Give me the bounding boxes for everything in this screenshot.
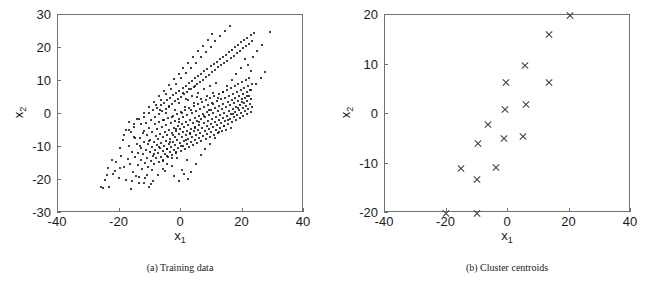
data-point — [157, 152, 159, 154]
data-point — [219, 35, 221, 37]
data-point — [192, 144, 194, 146]
scatter-plot-cluster-centroids — [385, 15, 629, 211]
data-point — [148, 127, 150, 129]
data-point — [173, 127, 175, 129]
data-point — [119, 167, 121, 169]
data-point — [242, 107, 244, 109]
data-point — [195, 163, 197, 165]
data-point — [175, 92, 177, 94]
data-point — [143, 141, 145, 143]
y-tick — [384, 14, 388, 15]
data-point — [146, 134, 148, 136]
y-tick-label: -10 — [344, 155, 378, 170]
data-point — [143, 112, 145, 114]
data-point — [130, 188, 132, 190]
data-point — [165, 108, 167, 110]
data-point — [260, 77, 262, 79]
data-point — [174, 109, 176, 111]
data-point — [217, 66, 219, 68]
data-point — [200, 140, 202, 142]
data-point — [229, 25, 231, 27]
centroid-marker — [483, 120, 492, 129]
data-point — [188, 88, 190, 90]
data-point — [201, 127, 203, 129]
data-point — [169, 151, 171, 153]
data-point — [232, 113, 234, 115]
data-point — [187, 124, 189, 126]
data-point — [230, 127, 232, 129]
data-point — [205, 76, 207, 78]
data-point — [186, 114, 188, 116]
data-point — [119, 147, 121, 149]
data-point — [231, 99, 233, 101]
data-point — [195, 110, 197, 112]
data-point — [152, 180, 154, 182]
data-point — [197, 129, 199, 131]
data-point — [115, 161, 117, 163]
data-point — [125, 179, 127, 181]
data-point — [163, 90, 165, 92]
x-tick-label: -20 — [436, 214, 455, 229]
y-tick — [57, 146, 61, 147]
data-point — [197, 50, 199, 52]
data-point — [186, 91, 188, 93]
data-point — [191, 112, 193, 114]
data-point — [209, 85, 211, 87]
data-point — [196, 142, 198, 144]
data-point — [212, 92, 214, 94]
data-point — [197, 103, 199, 105]
data-point — [240, 89, 242, 91]
data-point — [181, 169, 183, 171]
data-point — [185, 98, 187, 100]
data-point — [202, 45, 204, 47]
data-point — [218, 105, 220, 107]
y-tick — [384, 64, 388, 65]
data-point — [206, 125, 208, 127]
data-point — [111, 159, 113, 161]
data-point — [207, 120, 209, 122]
y-tick — [57, 80, 61, 81]
data-point — [214, 40, 216, 42]
data-point — [160, 104, 162, 106]
data-point — [187, 138, 189, 140]
data-point — [175, 151, 177, 153]
data-point — [230, 57, 232, 59]
data-point — [183, 126, 185, 128]
data-point — [252, 56, 254, 58]
data-point — [245, 45, 247, 47]
data-point — [112, 173, 114, 175]
data-point — [238, 95, 240, 97]
data-point — [225, 129, 227, 131]
data-point — [197, 92, 199, 94]
data-point — [178, 133, 180, 135]
data-point — [185, 134, 187, 136]
data-point — [201, 101, 203, 103]
data-point — [243, 39, 245, 41]
data-point — [253, 32, 255, 34]
scatter-plot-training-data — [58, 15, 302, 211]
data-point — [178, 73, 180, 75]
data-point — [166, 148, 168, 150]
data-point — [157, 174, 159, 176]
y-tick-label: -20 — [17, 172, 51, 187]
data-point — [206, 68, 208, 70]
data-point — [179, 128, 181, 130]
data-point — [190, 88, 192, 90]
data-point — [137, 164, 139, 166]
y-tick-label: 30 — [17, 7, 51, 22]
data-point — [219, 127, 221, 129]
data-point — [218, 131, 220, 133]
data-point — [171, 157, 173, 159]
data-point — [209, 136, 211, 138]
data-point — [157, 138, 159, 140]
data-point — [138, 176, 140, 178]
data-point — [191, 80, 193, 82]
data-point — [187, 178, 189, 180]
data-point — [163, 102, 165, 104]
data-point — [206, 95, 208, 97]
data-point — [168, 129, 170, 131]
data-point — [166, 163, 168, 165]
y-tick-label: -20 — [344, 205, 378, 220]
data-point — [192, 56, 194, 58]
data-point — [159, 133, 161, 135]
